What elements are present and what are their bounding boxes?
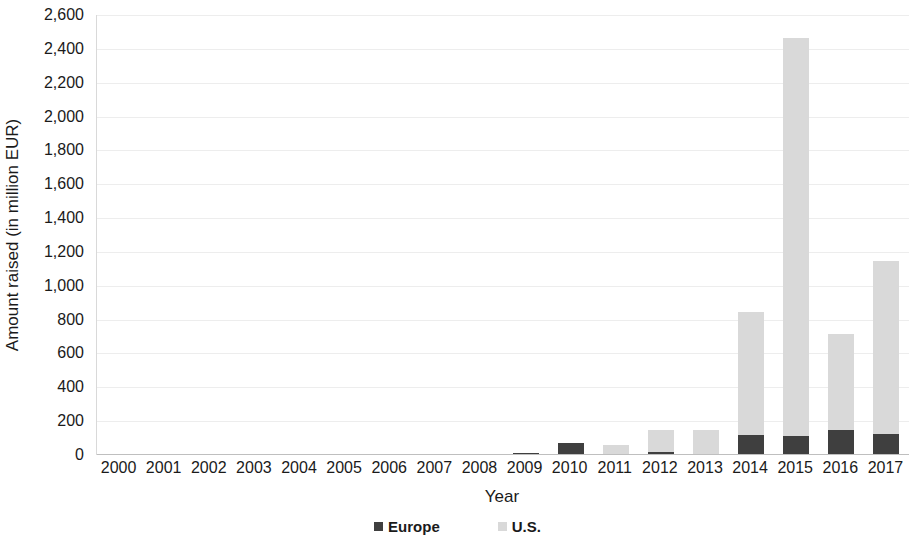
stacked-bar-chart: Amount raised (in million EUR) 020040060… — [0, 0, 915, 543]
y-axis-tick-label: 1,800 — [44, 141, 84, 159]
x-axis-tick-label: 2017 — [868, 459, 904, 477]
bar-stack[interactable] — [828, 334, 854, 455]
x-axis-tick-label: 2001 — [146, 459, 182, 477]
y-axis-tick-label: 1,000 — [44, 277, 84, 295]
bar-group[interactable] — [142, 15, 187, 455]
legend-item-europe[interactable]: Europe — [374, 518, 440, 535]
bar-group[interactable] — [819, 15, 864, 455]
bar-group[interactable] — [593, 15, 638, 455]
x-axis-tick-label: 2002 — [191, 459, 227, 477]
x-axis-tick-label: 2010 — [552, 459, 588, 477]
legend-label: Europe — [388, 518, 440, 535]
y-axis-tick-label: 1,200 — [44, 243, 84, 261]
plot-area — [96, 15, 909, 455]
y-axis-tick-label: 1,400 — [44, 209, 84, 227]
x-axis-tick-label: 2013 — [687, 459, 723, 477]
x-axis-tick-label: 2003 — [236, 459, 272, 477]
y-axis-tick-label: 2,000 — [44, 108, 84, 126]
x-axis-tick-labels: 2000200120022003200420052006200720082009… — [96, 459, 908, 485]
bar-group[interactable] — [413, 15, 458, 455]
y-axis-tick-label: 1,600 — [44, 175, 84, 193]
bar-segment-us[interactable] — [873, 261, 899, 434]
bar-segment-europe[interactable] — [738, 435, 764, 455]
bar-group[interactable] — [277, 15, 322, 455]
bar-stack[interactable] — [693, 430, 719, 455]
bar-segment-europe[interactable] — [828, 430, 854, 455]
bar-segment-us[interactable] — [648, 430, 674, 452]
bar-group[interactable] — [368, 15, 413, 455]
y-axis-tick-label: 0 — [75, 446, 84, 464]
x-axis-tick-label: 2011 — [598, 459, 632, 477]
bar-group[interactable] — [232, 15, 277, 455]
bar-group[interactable] — [548, 15, 593, 455]
chart-legend: EuropeU.S. — [0, 518, 915, 535]
bar-stack[interactable] — [873, 261, 899, 455]
y-axis-title-label: Amount raised (in million EUR) — [3, 119, 23, 351]
y-axis-tick-labels: 02004006008001,0001,2001,4001,6001,8002,… — [26, 0, 90, 470]
bar-segment-us[interactable] — [828, 334, 854, 430]
y-axis-tick-label: 800 — [57, 311, 84, 329]
y-axis-tick-label: 2,400 — [44, 40, 84, 58]
legend-label: U.S. — [512, 518, 541, 535]
legend-item-us[interactable]: U.S. — [498, 518, 541, 535]
bar-segment-us[interactable] — [693, 430, 719, 455]
bar-segment-europe[interactable] — [783, 436, 809, 455]
x-axis-tick-label: 2014 — [732, 459, 768, 477]
bar-stack[interactable] — [738, 312, 764, 455]
x-axis-tick-label: 2006 — [371, 459, 407, 477]
bar-group[interactable] — [97, 15, 142, 455]
bar-stack[interactable] — [648, 430, 674, 455]
y-axis-tick-label: 2,200 — [44, 74, 84, 92]
bar-segment-us[interactable] — [738, 312, 764, 435]
x-axis-title: Year — [96, 487, 908, 507]
x-axis-tick-label: 2016 — [823, 459, 859, 477]
bar-group[interactable] — [458, 15, 503, 455]
x-axis-tick-label: 2007 — [417, 459, 453, 477]
legend-swatch-icon — [498, 522, 507, 531]
bar-group[interactable] — [774, 15, 819, 455]
bar-group[interactable] — [729, 15, 774, 455]
x-axis-tick-label: 2008 — [462, 459, 498, 477]
y-axis-title: Amount raised (in million EUR) — [0, 0, 26, 470]
y-axis-tick-label: 2,600 — [44, 6, 84, 24]
bar-stack[interactable] — [783, 38, 809, 455]
x-axis-tick-label: 2005 — [326, 459, 362, 477]
bar-group[interactable] — [683, 15, 728, 455]
y-axis-tick-label: 400 — [57, 378, 84, 396]
y-axis-tick-label: 600 — [57, 344, 84, 362]
axis-baseline — [97, 454, 909, 455]
bar-group[interactable] — [187, 15, 232, 455]
bar-segment-us[interactable] — [783, 38, 809, 437]
bar-segment-europe[interactable] — [873, 434, 899, 455]
x-axis-tick-label: 2012 — [642, 459, 678, 477]
y-axis-tick-label: 200 — [57, 412, 84, 430]
bar-group[interactable] — [638, 15, 683, 455]
x-axis-tick-label: 2015 — [777, 459, 813, 477]
bars-layer — [97, 15, 909, 455]
x-axis-tick-label: 2000 — [101, 459, 137, 477]
bar-group[interactable] — [323, 15, 368, 455]
legend-swatch-icon — [374, 522, 383, 531]
x-axis-tick-label: 2004 — [281, 459, 317, 477]
bar-group[interactable] — [503, 15, 548, 455]
x-axis-tick-label: 2009 — [507, 459, 543, 477]
bar-group[interactable] — [864, 15, 909, 455]
